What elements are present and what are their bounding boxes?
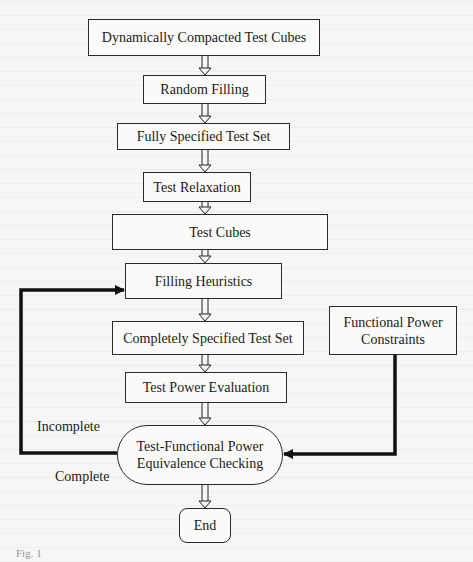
node-label: Filling Heuristics: [155, 273, 253, 290]
node-functional-power-constraints: Functional Power Constraints: [329, 306, 457, 355]
arrow-n4-n5: [199, 202, 211, 214]
arrow-n5-n6: [199, 250, 211, 263]
node-label-line2: Equivalence Checking: [137, 455, 263, 472]
node-label: Dynamically Compacted Test Cubes: [102, 29, 306, 46]
edge-label-incomplete: Incomplete: [37, 419, 100, 435]
node-test-functional-power-equivalence-checking: Test-Functional Power Equivalence Checki…: [117, 425, 283, 485]
node-label: End: [194, 517, 217, 534]
arrow-n7-n8: [199, 355, 211, 372]
node-fully-specified-test-set: Fully Specified Test Set: [117, 123, 290, 150]
arrow-n2-n3: [199, 104, 211, 123]
node-label-line2: Constraints: [361, 331, 425, 348]
node-label: Test Cubes: [189, 224, 251, 241]
node-test-relaxation: Test Relaxation: [143, 172, 251, 202]
arrow-n3-n4: [199, 150, 211, 172]
node-label: Completely Specified Test Set: [123, 330, 292, 347]
node-completely-specified-test-set: Completely Specified Test Set: [112, 321, 304, 355]
node-label: Test Relaxation: [153, 179, 240, 196]
node-random-filling: Random Filling: [143, 75, 266, 104]
node-filling-heuristics: Filling Heuristics: [125, 263, 282, 299]
node-label: Fully Specified Test Set: [137, 128, 271, 145]
node-test-power-evaluation: Test Power Evaluation: [125, 372, 287, 403]
node-label: Random Filling: [160, 81, 248, 98]
node-end: End: [179, 508, 231, 543]
node-label: Test Power Evaluation: [143, 379, 270, 396]
arrow-n9-n10: [199, 485, 211, 508]
node-test-cubes: Test Cubes: [112, 214, 328, 250]
node-label-line1: Functional Power: [343, 314, 442, 331]
node-label-line1: Test-Functional Power: [137, 438, 264, 455]
arrow-n8-n9: [199, 403, 211, 425]
arrow-n6-n7: [199, 299, 211, 321]
node-dynamically-compacted-test-cubes: Dynamically Compacted Test Cubes: [88, 19, 320, 56]
constraints-line: [284, 355, 395, 454]
arrow-n1-n2: [199, 56, 211, 75]
figure-caption: Fig. 1: [16, 547, 42, 559]
edge-label-complete: Complete: [55, 469, 109, 485]
